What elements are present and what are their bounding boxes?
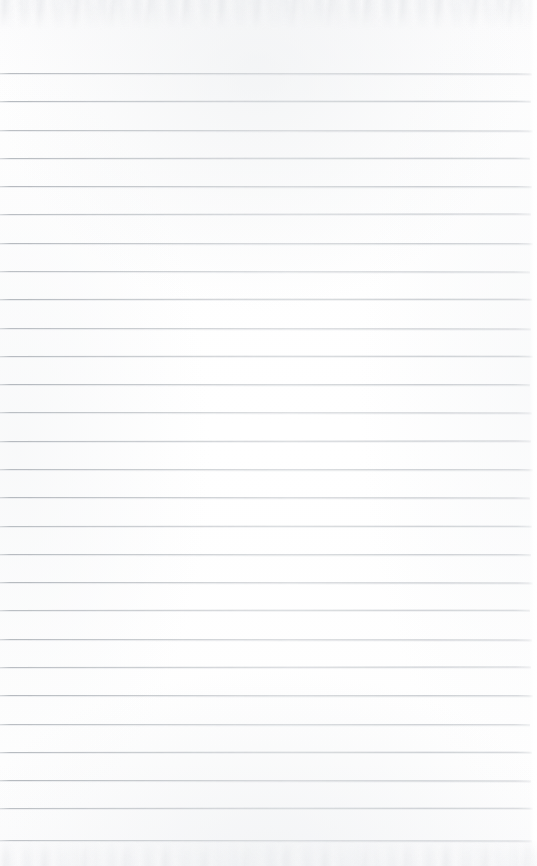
ruled-line bbox=[0, 752, 532, 753]
ruled-line bbox=[0, 243, 533, 244]
ruled-line bbox=[0, 695, 533, 696]
ruled-line bbox=[0, 840, 532, 841]
ruled-line bbox=[0, 73, 532, 75]
ruled-line bbox=[0, 186, 532, 187]
scanned-page bbox=[0, 0, 537, 866]
ruled-line bbox=[0, 299, 532, 300]
ruled-line bbox=[0, 271, 530, 273]
ruled-line bbox=[0, 214, 531, 215]
ruled-line bbox=[0, 526, 532, 527]
ruled-line bbox=[0, 780, 531, 782]
ruled-line bbox=[0, 158, 530, 159]
ruled-line bbox=[0, 356, 533, 357]
ruled-line bbox=[0, 808, 533, 809]
ruled-line bbox=[0, 497, 530, 498]
ruled-line bbox=[0, 328, 531, 329]
ruled-line bbox=[0, 130, 533, 131]
ruled-line bbox=[0, 412, 532, 414]
ruled-line bbox=[0, 667, 531, 668]
ruled-line bbox=[0, 724, 530, 725]
ruled-lines-group bbox=[0, 0, 537, 866]
ruled-line bbox=[0, 582, 533, 584]
ruled-line bbox=[0, 441, 531, 442]
ruled-line bbox=[0, 639, 532, 640]
ruled-line bbox=[0, 384, 530, 385]
ruled-line bbox=[0, 554, 531, 555]
ruled-line bbox=[0, 610, 530, 611]
ruled-line bbox=[0, 469, 533, 470]
ruled-line bbox=[0, 101, 531, 102]
